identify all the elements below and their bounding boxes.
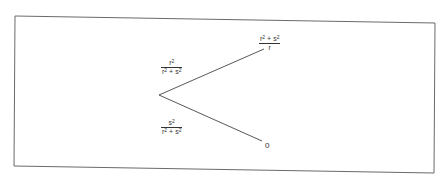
upper-probability-denominator: r2 + s2: [161, 68, 182, 75]
upper-probability-fraction: r2 r2 + s2: [161, 59, 182, 75]
lower-probability-numerator: s2: [168, 119, 176, 126]
diagram-canvas: [0, 0, 446, 181]
upper-outcome-numerator: r2 + s2: [259, 35, 280, 42]
lower-probability-fraction: s2 r2 + s2: [161, 119, 182, 135]
upper-probability-numerator: r2: [168, 59, 175, 66]
frame-border: [14, 16, 435, 173]
lower-probability-denominator: r2 + s2: [161, 128, 182, 135]
lower-outcome-value: 0: [265, 141, 269, 150]
upper-outcome-denominator: r: [268, 44, 272, 51]
upper-outcome-fraction: r2 + s2 r: [259, 35, 280, 51]
